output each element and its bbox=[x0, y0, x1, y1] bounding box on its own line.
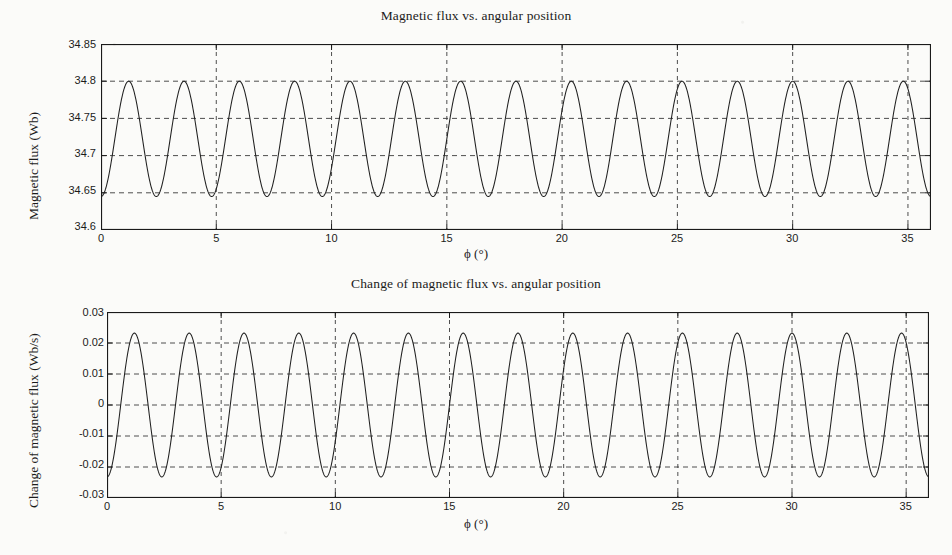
y-tick-label: 0.01 bbox=[52, 367, 104, 379]
x-axis-label-1: ϕ (°) bbox=[0, 246, 952, 262]
y-tick-label: 0 bbox=[52, 397, 104, 409]
x-tick-label: 20 bbox=[543, 500, 583, 512]
y-tick-label: 34.8 bbox=[48, 74, 96, 86]
chart-title-1: Magnetic flux vs. angular position bbox=[0, 8, 952, 24]
x-tick-label: 35 bbox=[887, 232, 927, 244]
x-axis-label-2: ϕ (°) bbox=[0, 516, 952, 532]
y-tick-label: -0.02 bbox=[52, 458, 104, 470]
y-tick-label: 34.6 bbox=[48, 220, 96, 232]
x-tick-label: 15 bbox=[427, 232, 467, 244]
x-tick-label: 25 bbox=[658, 500, 698, 512]
chart-title-2: Change of magnetic flux vs. angular posi… bbox=[0, 276, 952, 292]
x-tick-label: 25 bbox=[657, 232, 697, 244]
y-tick-label: 34.75 bbox=[48, 111, 96, 123]
x-tick-label: 20 bbox=[542, 232, 582, 244]
x-tick-label: 10 bbox=[315, 500, 355, 512]
x-tick-label: 5 bbox=[201, 500, 241, 512]
figure-container: Magnetic flux vs. angular position Magne… bbox=[0, 0, 952, 555]
plot-area-1 bbox=[101, 44, 931, 230]
chart-panel-change-of-flux: Change of magnetic flux vs. angular posi… bbox=[0, 268, 952, 555]
plot-area-2 bbox=[107, 312, 929, 498]
y-axis-label-1: Magnetic flux (Wb) bbox=[26, 112, 42, 220]
y-tick-label: 34.7 bbox=[48, 147, 96, 159]
x-tick-label: 30 bbox=[772, 232, 812, 244]
x-tick-label: 5 bbox=[196, 232, 236, 244]
x-tick-label: 30 bbox=[772, 500, 812, 512]
y-tick-label: 0.02 bbox=[52, 336, 104, 348]
y-tick-label: 34.85 bbox=[48, 38, 96, 50]
x-tick-label: 35 bbox=[886, 500, 926, 512]
x-tick-label: 15 bbox=[429, 500, 469, 512]
x-tick-label: 10 bbox=[311, 232, 351, 244]
x-tick-label: 0 bbox=[87, 500, 127, 512]
y-tick-label: 0.03 bbox=[52, 306, 104, 318]
y-tick-label: 34.65 bbox=[48, 184, 96, 196]
y-tick-label: -0.01 bbox=[52, 427, 104, 439]
y-tick-label: -0.03 bbox=[52, 488, 104, 500]
x-tick-label: 0 bbox=[81, 232, 121, 244]
y-axis-label-2: Change of magnetic flux (Wb/s) bbox=[26, 333, 42, 508]
chart-panel-magnetic-flux: Magnetic flux vs. angular position Magne… bbox=[0, 0, 952, 268]
